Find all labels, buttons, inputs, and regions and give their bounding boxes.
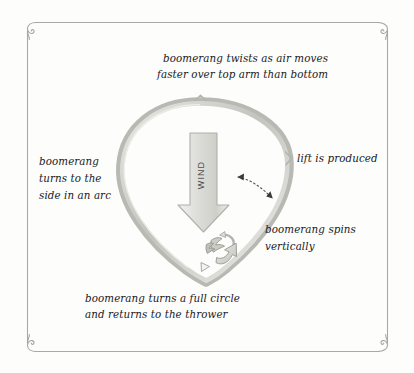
label-spins-line1: boomerang spins	[265, 223, 356, 235]
label-top-line2: faster over top arm than bottom	[156, 68, 328, 80]
label-bottom-line1: boomerang turns a full circle	[85, 292, 240, 304]
label-spins-line2: vertically	[265, 240, 315, 252]
label-left-line2: turns to the	[39, 172, 102, 184]
wind-label: WIND	[196, 161, 206, 189]
label-left-line3: side in an arc	[39, 189, 111, 201]
diagram-canvas: WIND boomerang twists as air moves faste…	[0, 0, 414, 373]
label-lift: lift is produced	[297, 152, 378, 164]
boomerang-flight-diagram: WIND boomerang twists as air moves faste…	[0, 0, 414, 373]
label-top-line1: boomerang twists as air moves	[163, 52, 328, 64]
label-bottom-line2: and returns to the thrower	[85, 308, 229, 320]
label-left-line1: boomerang	[39, 155, 99, 167]
